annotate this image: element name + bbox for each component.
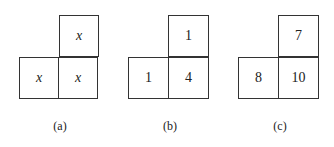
caption: (a) xyxy=(53,119,66,134)
cell-bottom-right: x xyxy=(58,57,98,99)
caption: (c) xyxy=(273,119,286,134)
cell-bottom-left: 1 xyxy=(128,57,169,99)
cell-bottom-right: 4 xyxy=(168,57,209,99)
cell-bottom-left: x xyxy=(19,57,59,99)
cell-top: 1 xyxy=(168,15,209,57)
caption: (b) xyxy=(163,119,177,134)
cell-bottom-right: 10 xyxy=(278,57,319,99)
cell-bottom-left: 8 xyxy=(238,57,279,99)
panel-b: 1 1 4 (b) xyxy=(110,0,220,147)
cell-top: 7 xyxy=(278,15,319,57)
panel-a: x x x (a) xyxy=(0,0,110,147)
cell-top: x xyxy=(59,15,99,57)
panel-c: 7 8 10 (c) xyxy=(220,0,330,147)
